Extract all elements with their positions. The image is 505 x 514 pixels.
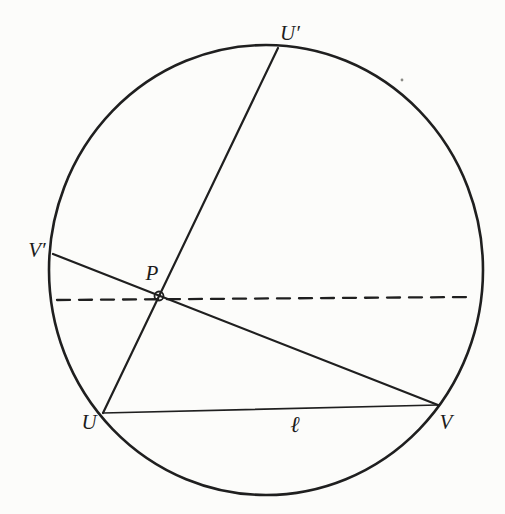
scan-speck [401, 79, 404, 82]
figure-background [0, 0, 505, 514]
label-ell: ℓ [290, 412, 300, 437]
label-v-prime: V′ [28, 238, 46, 262]
label-v: V [440, 410, 455, 434]
label-u: U [81, 410, 98, 434]
geometry-figure: U′ V′ P U V ℓ [0, 0, 505, 514]
circle-diagram: U′ V′ P U V ℓ [0, 0, 505, 514]
label-p: P [145, 261, 159, 285]
label-u-prime: U′ [280, 21, 300, 45]
